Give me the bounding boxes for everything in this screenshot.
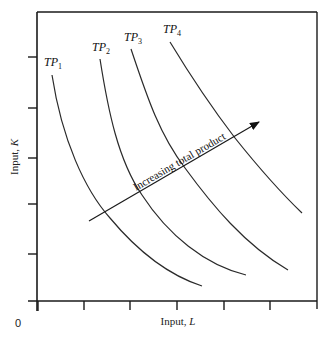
arrow-annotation: Increasing total product — [131, 130, 227, 193]
label-tp1: TP1 — [44, 55, 62, 71]
label-tp4: TP4 — [163, 22, 181, 38]
curve-tp1 — [52, 75, 202, 286]
y-ticks — [28, 57, 37, 254]
label-tp3: TP3 — [124, 30, 142, 46]
x-axis-label: Input, L — [161, 315, 196, 327]
curve-tp4 — [170, 42, 302, 213]
curve-tp3 — [131, 49, 288, 270]
isoquant-chart: TP1 TP2 TP3 TP4 Increasing total product… — [0, 0, 332, 342]
origin-label: 0 — [15, 317, 21, 329]
label-tp2: TP2 — [92, 40, 110, 56]
y-axis-label: Input, K — [8, 138, 20, 175]
increasing-arrow — [89, 122, 259, 221]
x-ticks — [38, 301, 270, 311]
